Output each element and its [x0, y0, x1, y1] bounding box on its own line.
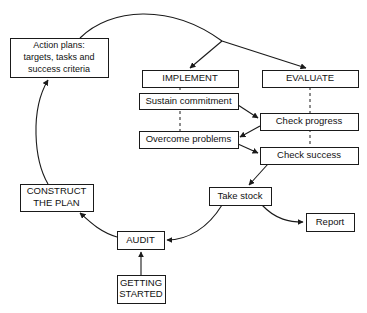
node-label-report: Report: [316, 216, 345, 227]
node-label-getting-started: STARTED: [119, 288, 163, 299]
node-label-implement: IMPLEMENT: [162, 72, 218, 83]
node-getting-started[interactable]: GETTINGSTARTED: [118, 276, 166, 304]
connector-take-stock-to-audit: [167, 205, 222, 240]
diagram-canvas: Action plans:targets, tasks andsuccess c…: [0, 0, 367, 313]
connector-fork-to-implement: [190, 41, 222, 68]
connector-construct-to-action-plans: [36, 80, 48, 184]
node-evaluate[interactable]: EVALUATE: [263, 71, 359, 88]
node-report[interactable]: Report: [307, 214, 355, 232]
node-label-construct-the-plan: CONSTRUCT: [27, 185, 87, 196]
node-implement[interactable]: IMPLEMENT: [143, 71, 239, 88]
connector-check-progress-to-overcome: [240, 126, 260, 137]
connector-take-stock-to-report: [262, 205, 303, 222]
node-audit[interactable]: AUDIT: [118, 232, 165, 250]
node-label-overcome-problems: Overcome problems: [146, 133, 232, 144]
connector-action-plans-to-fork: [80, 14, 222, 41]
connector-fork-to-evaluate: [222, 41, 306, 68]
flowchart-svg: Action plans:targets, tasks andsuccess c…: [0, 0, 367, 313]
node-label-evaluate: EVALUATE: [286, 72, 334, 83]
node-label-action-plans: success criteria: [28, 64, 90, 74]
node-label-sustain-commitment: Sustain commitment: [145, 95, 231, 106]
node-label-check-success: Check success: [277, 149, 341, 160]
node-construct-the-plan[interactable]: CONSTRUCTTHE PLAN: [21, 185, 94, 212]
node-check-progress[interactable]: Check progress: [261, 114, 359, 131]
node-take-stock[interactable]: Take stock: [210, 188, 272, 206]
nodes-layer: Action plans:targets, tasks andsuccess c…: [11, 39, 359, 304]
connector-sustain-to-check-progress: [238, 105, 258, 118]
node-label-getting-started: GETTING: [120, 277, 162, 288]
connector-audit-to-construct: [80, 213, 117, 237]
node-label-action-plans: Action plans:: [33, 40, 85, 50]
node-label-take-stock: Take stock: [218, 190, 263, 201]
connector-check-success-to-take-stock: [249, 164, 268, 185]
node-sustain-commitment[interactable]: Sustain commitment: [140, 94, 239, 110]
node-overcome-problems[interactable]: Overcome problems: [140, 132, 239, 149]
node-check-success[interactable]: Check success: [261, 148, 359, 165]
node-label-construct-the-plan: THE PLAN: [33, 197, 80, 208]
node-action-plans[interactable]: Action plans:targets, tasks andsuccess c…: [11, 39, 109, 78]
node-label-action-plans: targets, tasks and: [23, 52, 94, 62]
connector-overcome-to-check-success: [238, 144, 258, 153]
node-label-audit: AUDIT: [126, 234, 155, 245]
node-label-check-progress: Check progress: [276, 115, 343, 126]
